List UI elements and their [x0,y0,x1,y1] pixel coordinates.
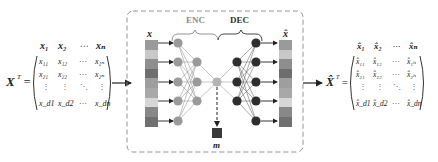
output-cell: ⋯ [392,57,400,66]
network-connections [178,43,237,121]
output-cell: x̂₂₁ [355,70,365,79]
output-matrix: X̂ T = x̂₁ x̂₂ ⋯ x̂ₙ x̂₁₁ x̂₁₂ ⋯ x̂₁ₙ x̂… [325,41,424,110]
input-col-header: ⋯ [79,41,88,51]
decoder-label: DEC [230,15,249,25]
input-cell: ⋱ [80,82,88,91]
latent-node [212,77,221,86]
output-vector-label: x̂ [282,28,288,39]
input-matrix: X T = x₁ x₂ ⋯ xₙ x₁₁ x₁₂ ⋯ x₁ₙ x₂₁ x₂₂ ⋯… [5,40,111,110]
output-cell: ⋮ [410,82,418,91]
output-col-header: x̂ₙ [408,41,418,51]
decoder-node [251,96,260,105]
latent-code-square [212,128,222,138]
decoder-node [232,96,241,105]
input-cell: ⋯ [79,57,87,66]
decoder-node [251,77,260,86]
input-matrix-equals: = [23,75,31,89]
input-left-paren [34,56,38,110]
decoder-node [251,116,260,125]
input-cell: x_d2 [57,99,74,108]
output-cell: ⋯ [392,70,400,79]
input-col-header: x₂ [57,40,67,51]
input-cell: ⋯ [79,70,87,79]
output-cell: x̂₂₂ [372,70,382,79]
encoder-node [192,77,201,86]
output-cell: ⋮ [359,82,367,91]
input-arrows [158,43,173,121]
input-cell: ⋮ [42,82,50,91]
encoder-node [173,116,182,125]
output-cell: ⋮ [376,82,384,91]
latent-label: m [213,140,220,150]
output-cell: ⋯ [392,99,400,108]
encoder-node [173,57,182,66]
output-matrix-equals: = [341,76,348,88]
encoder-node [173,96,182,105]
encoder-label: ENC [186,15,205,25]
autoencoder-diagram: X T = x₁ x₂ ⋯ xₙ x₁₁ x₁₂ ⋯ x₁ₙ x₂₁ x₂₂ ⋯… [0,0,438,162]
output-col-header: x̂₂ [373,41,382,51]
input-cell: x_dn [94,99,111,108]
encoder-node [173,77,182,86]
input-cell: ⋮ [61,82,69,91]
encoder-node [173,38,182,47]
output-arrows [261,43,277,121]
input-col-header: x₁ [39,40,49,51]
output-cell: x̂_dn [406,99,422,108]
input-cell: x₂₂ [57,70,67,79]
input-col-header: xₙ [95,40,106,51]
decoder-node [232,57,241,66]
encoder-node [192,57,201,66]
output-cell: x̂_d1 [355,99,371,108]
decoder-node [232,77,241,86]
output-cell: x̂₁₁ [355,57,365,66]
input-matrix-superscript: T [17,73,22,81]
output-cell: x̂₂ₙ [406,70,416,79]
output-cell: x̂₁ₙ [406,57,416,66]
output-left-paren [351,56,355,110]
autoencoder-network: x x̂ ENC DEC [145,15,292,150]
input-cell: x₂₁ [38,70,48,79]
output-cell: ⋱ [393,82,401,91]
input-feature-bar [145,40,158,127]
input-cell: ⋮ [98,82,106,91]
input-cell: x₁₁ [38,57,48,66]
output-col-header: x̂₁ [356,41,365,51]
output-matrix-superscript: T [336,74,340,80]
encoder-node [192,96,201,105]
input-cell: x₂ₙ [94,70,105,79]
decoder-node [251,57,260,66]
decoder-node [251,38,260,47]
output-col-header: ⋯ [392,42,400,51]
input-cell: x₁₂ [57,57,67,66]
output-cell: x̂_d2 [372,99,388,108]
output-cell: x̂₁₂ [372,57,382,66]
output-feature-bar [279,40,292,127]
input-cell: x₁ₙ [94,57,105,66]
input-matrix-label: X [5,74,15,89]
input-vector-label: x [146,28,152,39]
input-cell: x_d1 [38,99,55,108]
input-cell: ⋯ [79,99,87,108]
output-matrix-label: X̂ [325,75,335,89]
